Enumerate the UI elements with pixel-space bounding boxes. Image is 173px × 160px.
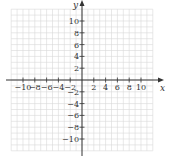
x-tick-label: 10 [136,83,146,92]
coordinate-plane: −10−8−6−4−2246810108642−2−4−6−8−10 x y [0,0,173,160]
y-tick-label: 10 [69,17,79,26]
x-tick-label: −8 [29,83,41,92]
axes [6,0,164,156]
x-tick-label: 8 [127,83,132,92]
y-tick-label: −4 [67,100,79,109]
x-axis-label: x [160,83,165,93]
y-tick-label: 6 [74,41,79,50]
x-tick-label: 2 [91,83,96,92]
x-tick-label: −6 [41,83,53,92]
x-tick-label: −4 [53,83,65,92]
y-tick-label: −10 [62,135,79,144]
y-tick-label: −8 [67,123,79,132]
y-tick-label: −6 [67,111,79,120]
x-axis-arrow-icon [158,78,164,83]
y-tick-label: 4 [74,52,79,61]
x-tick-label: 6 [115,83,120,92]
y-axis-arrow-icon [80,0,85,6]
x-tick-label: 4 [103,83,108,92]
y-tick-label: −2 [67,88,79,97]
y-axis-label: y [72,0,79,10]
y-tick-label: 2 [74,64,79,73]
y-tick-label: 8 [74,29,79,38]
